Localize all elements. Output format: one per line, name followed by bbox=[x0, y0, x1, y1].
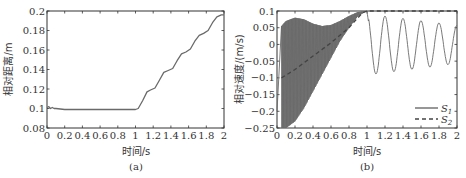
chart-panel-b: 00.20.40.60.811.21.41.61.82−0.25−0.2−0.1… bbox=[233, 6, 460, 173]
x-tick-label: 1.8 bbox=[431, 130, 447, 141]
x-tick-label: 1.2 bbox=[377, 130, 393, 141]
y-tick-label: −0.2 bbox=[251, 106, 275, 117]
series-s1-line bbox=[277, 11, 457, 128]
x-tick-label: 1.4 bbox=[163, 130, 179, 141]
y-tick-label: 0.12 bbox=[23, 84, 45, 95]
x-tick-label: 0.4 bbox=[305, 130, 321, 141]
x-tick-label: 0.2 bbox=[57, 130, 73, 141]
x-tick-label: 1.6 bbox=[181, 130, 197, 141]
x-tick-label: 1 bbox=[132, 130, 138, 141]
y-tick-label: 0.1 bbox=[29, 103, 45, 114]
x-tick-label: 0.6 bbox=[92, 130, 108, 141]
y-tick-label: 0.05 bbox=[253, 22, 275, 33]
x-tick-label: 0.4 bbox=[74, 130, 90, 141]
x-axis-label-a: 时间/s bbox=[122, 145, 151, 157]
plot-lines-a bbox=[47, 15, 224, 110]
x-axis-label-b: 时间/s bbox=[353, 145, 382, 157]
y-tick-label: 0.1 bbox=[259, 6, 275, 17]
x-tick-label: 1.4 bbox=[395, 130, 411, 141]
y-tick-label: −0.1 bbox=[251, 72, 275, 83]
x-tick-label: 0.6 bbox=[323, 130, 339, 141]
plot-frame-a bbox=[47, 11, 224, 128]
x-tick-label: 1.2 bbox=[145, 130, 161, 141]
y-axis-label-b: 相对速度/(m/s) bbox=[233, 34, 245, 104]
x-tick-label: 2 bbox=[221, 130, 227, 141]
caption-a: (a) bbox=[129, 161, 143, 172]
y-tick-label: −0.15 bbox=[244, 89, 275, 100]
y-tick-label: 0.16 bbox=[23, 45, 45, 56]
x-tick-label: 1.6 bbox=[413, 130, 429, 141]
x-tick-label: 1.8 bbox=[198, 130, 214, 141]
legend: S1 S2 bbox=[415, 103, 453, 127]
y-tick-label: 0.2 bbox=[29, 6, 45, 17]
x-tick-label: 0.8 bbox=[341, 130, 357, 141]
y-tick-label: 0.18 bbox=[23, 25, 45, 36]
y-tick-label: −0.25 bbox=[244, 123, 275, 134]
x-tick-label: 1 bbox=[364, 130, 370, 141]
plot-lines-b bbox=[277, 11, 457, 128]
x-tick-label: 2 bbox=[454, 130, 460, 141]
y-tick-label: −0.05 bbox=[244, 56, 275, 67]
x-tick-label: 0.8 bbox=[110, 130, 126, 141]
figure: 00.20.40.60.811.21.41.61.820.080.10.120.… bbox=[0, 0, 466, 178]
chart-panel-a: 00.20.40.60.811.21.41.61.820.080.10.120.… bbox=[2, 6, 227, 173]
y-tick-label: 0.08 bbox=[23, 123, 45, 134]
y-tick-label: 0 bbox=[269, 39, 275, 50]
axis-ticks-a: 00.20.40.60.811.21.41.61.820.080.10.120.… bbox=[23, 6, 227, 142]
series-line bbox=[47, 15, 224, 110]
x-tick-label: 0.2 bbox=[287, 130, 303, 141]
y-axis-label-a: 相对距离/m bbox=[2, 42, 14, 95]
caption-b: (b) bbox=[360, 161, 374, 172]
y-tick-label: 0.14 bbox=[23, 64, 45, 75]
